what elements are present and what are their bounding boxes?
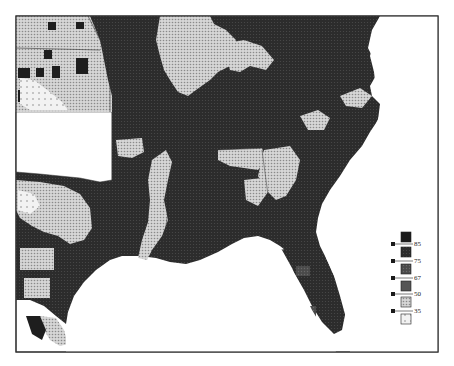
county-light bbox=[24, 278, 50, 298]
blank-region bbox=[16, 112, 112, 182]
legend-break-67: 67 bbox=[414, 274, 422, 282]
county-mid bbox=[296, 266, 310, 276]
county-dark bbox=[36, 68, 44, 77]
legend-swatch-class-5 bbox=[401, 247, 411, 257]
legend-swatch-class-6 bbox=[401, 232, 411, 242]
legend-swatch-class-4 bbox=[401, 264, 411, 274]
county-dark bbox=[52, 66, 60, 78]
legend-swatch-class-1 bbox=[401, 314, 411, 324]
county-dark bbox=[44, 50, 52, 59]
legend-swatch-class-3 bbox=[401, 281, 411, 291]
legend-break-50: 50 bbox=[414, 290, 422, 298]
legend-break-85: 85 bbox=[414, 240, 422, 248]
county-dark bbox=[76, 58, 88, 74]
legend-swatch-class-2 bbox=[401, 297, 411, 307]
county-dark bbox=[18, 68, 30, 78]
county-dark bbox=[48, 22, 56, 30]
legend-break-35: 35 bbox=[414, 307, 422, 315]
county-dark bbox=[76, 22, 84, 29]
choropleth-map: 85 75 67 50 35 bbox=[0, 0, 454, 366]
county-light bbox=[20, 248, 54, 270]
legend-break-75: 75 bbox=[414, 257, 422, 265]
